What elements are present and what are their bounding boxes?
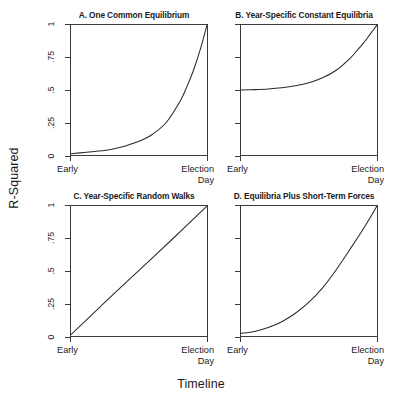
x-tick-mark-election [377, 337, 378, 342]
x-tick-label-election: Election [156, 164, 214, 175]
x-tick-label-election: Election [156, 345, 214, 356]
x-tick-label-early: Early [227, 164, 248, 175]
y-tick-label-0: 0 [46, 326, 56, 348]
x-tick-mark-early [70, 337, 71, 342]
x-tick-mark-early [240, 156, 241, 161]
x-tick-mark-election [377, 156, 378, 161]
x-tick-mark-election [207, 156, 208, 161]
panel-d-plot-area [240, 205, 378, 337]
y-tick-label-05: .5 [46, 260, 56, 282]
x-tick-label-day: Day [326, 175, 384, 186]
panel-b-title: B. Year-Specific Constant Equilibria [218, 10, 390, 20]
x-tick-label-election: Election [326, 345, 384, 356]
x-tick-mark-election [207, 337, 208, 342]
panel-d: D. Equilibria Plus Short-Term Forces Ear… [218, 191, 390, 377]
x-tick-label-election-day: Election Day [326, 345, 384, 366]
panel-d-curve-svg [241, 206, 377, 336]
x-tick-label-election-day: Election Day [156, 345, 214, 366]
panel-b-curve [241, 25, 377, 90]
panel-c-title: C. Year-Specific Random Walks [48, 191, 220, 201]
panel-b-plot-area [240, 24, 378, 156]
x-tick-label-early: Early [227, 345, 248, 356]
panel-c-plot-area [70, 205, 208, 337]
x-tick-label-day: Day [326, 356, 384, 367]
y-tick-label-0: 0 [46, 145, 56, 167]
panel-c-curve [71, 206, 207, 335]
figure-panel-grid: R-Squared Timeline A. One Common Equilib… [0, 0, 402, 406]
panel-b: B. Year-Specific Constant Equilibria Ear… [218, 10, 390, 196]
x-tick-mark-early [70, 156, 71, 161]
y-tick-label-025: .25 [46, 112, 56, 134]
panel-a: A. One Common Equilibrium 1 .75 .5 .25 0… [48, 10, 220, 196]
panel-a-plot-area [70, 24, 208, 156]
y-tick-label-075: .75 [46, 46, 56, 68]
x-axis-title: Timeline [0, 377, 402, 391]
panel-d-curve [241, 206, 377, 333]
panel-c-curve-svg [71, 206, 207, 336]
y-tick-label-025: .25 [46, 293, 56, 315]
y-tick-label-05: .5 [46, 79, 56, 101]
x-tick-label-day: Day [156, 356, 214, 367]
x-tick-label-election-day: Election Day [156, 164, 214, 185]
y-tick-label-1: 1 [46, 13, 56, 35]
x-tick-mark-early [240, 337, 241, 342]
y-tick-label-075: .75 [46, 227, 56, 249]
x-tick-label-day: Day [156, 175, 214, 186]
x-tick-label-election-day: Election Day [326, 164, 384, 185]
x-tick-label-early: Early [57, 164, 78, 175]
y-tick-label-1: 1 [46, 194, 56, 216]
x-tick-label-early: Early [57, 345, 78, 356]
panel-d-title: D. Equilibria Plus Short-Term Forces [218, 191, 390, 201]
x-tick-label-election: Election [326, 164, 384, 175]
y-axis-title: R-Squared [7, 133, 21, 223]
panel-a-curve [71, 25, 207, 154]
panel-c: C. Year-Specific Random Walks 1 .75 .5 .… [48, 191, 220, 377]
panel-a-curve-svg [71, 25, 207, 155]
panel-a-title: A. One Common Equilibrium [48, 10, 220, 20]
panel-b-curve-svg [241, 25, 377, 155]
